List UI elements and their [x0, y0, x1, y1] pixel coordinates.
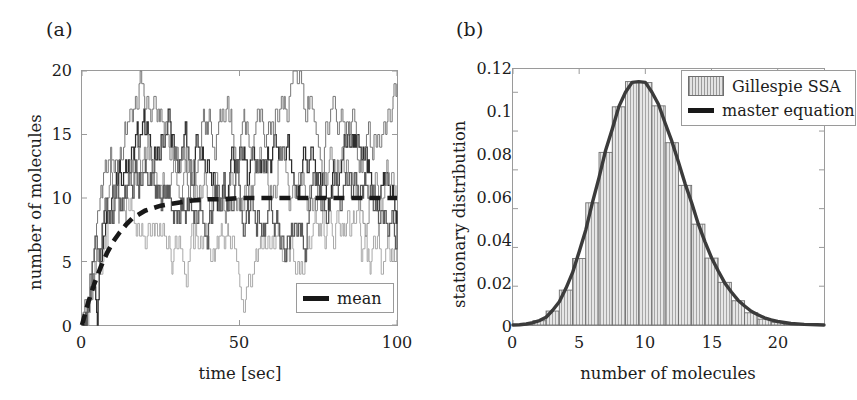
panel-b-ytick-002: 0.02 — [454, 274, 512, 293]
panel-b-ytick-01: 0.1 — [454, 102, 512, 121]
legend-entry-mean: mean — [303, 287, 387, 309]
legend-label-master: master equation — [722, 101, 855, 120]
panel-a-ytick-10: 10 — [40, 189, 72, 208]
panel-b: (b) stationary distribution number of mo… — [430, 0, 857, 400]
legend-label-gillespie: Gillespie SSA — [732, 77, 841, 96]
panel-a-ytick-0: 0 — [48, 317, 72, 336]
panel-a-xlabel: time [sec] — [199, 364, 282, 383]
panel-a-ytick-20: 20 — [40, 61, 72, 80]
histogram-swatch-icon — [688, 76, 724, 96]
panel-b-xtick-0: 0 — [507, 333, 517, 352]
panel-a-legend: mean — [296, 283, 394, 313]
panel-b-xtick-15: 15 — [702, 333, 722, 352]
panel-b-label: (b) — [456, 18, 484, 40]
panel-b-ytick-006: 0.06 — [454, 188, 512, 207]
panel-a-xtick-0: 0 — [76, 333, 86, 352]
panel-a-label: (a) — [46, 18, 73, 40]
master-curve-swatch-icon — [688, 108, 714, 113]
panel-a-xtick-50: 50 — [229, 333, 249, 352]
panel-a-ytick-15: 15 — [40, 125, 72, 144]
panel-b-xlabel: number of molecules — [580, 364, 756, 383]
panel-b-ytick-004: 0.04 — [454, 231, 512, 250]
panel-a: (a) number of molecules time [sec] 0 5 1… — [0, 0, 430, 400]
legend-label-mean: mean — [337, 289, 381, 308]
panel-a-xtick-100: 100 — [382, 333, 413, 352]
panel-b-xtick-20: 20 — [768, 333, 788, 352]
panel-b-ytick-012: 0.12 — [454, 59, 512, 78]
panel-b-xtick-5: 5 — [574, 333, 584, 352]
panel-b-xtick-10: 10 — [635, 333, 655, 352]
panel-b-legend: Gillespie SSA master equation — [681, 70, 856, 126]
legend-entry-gillespie: Gillespie SSA — [688, 74, 849, 98]
mean-line-swatch-icon — [303, 296, 329, 301]
panel-a-ytick-5: 5 — [48, 253, 72, 272]
figure-root: (a) number of molecules time [sec] 0 5 1… — [0, 0, 857, 400]
panel-b-ytick-0: 0 — [454, 317, 512, 336]
panel-b-ytick-008: 0.08 — [454, 145, 512, 164]
legend-entry-master: master equation — [688, 98, 849, 122]
